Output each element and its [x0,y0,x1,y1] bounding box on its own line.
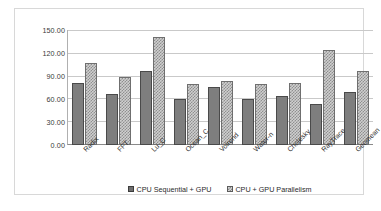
legend-item-label: CPU + GPU Parallelism [235,185,311,194]
bar[interactable] [344,92,356,145]
x-axis-labels: RadixFFTLu_COcean_CVolrendWater-nCholesk… [67,146,373,182]
x-label-slot: Geomean [339,146,373,182]
y-tick-label: 120.00 [19,49,65,58]
bar-group [203,30,237,145]
x-label-slot: Lu_C [135,146,169,182]
x-label-slot: Ocean_C [169,146,203,182]
x-label-slot: Water-n [237,146,271,182]
bar-group [271,30,305,145]
bar[interactable] [106,94,118,145]
y-tick-label: 30.00 [19,118,65,127]
bar-group [67,30,101,145]
bar-group [339,30,373,145]
legend-item-cpu-gpu-parallelism[interactable]: CPU + GPU Parallelism [227,185,311,194]
bar[interactable] [85,63,97,145]
x-label-slot: Radix [67,146,101,182]
bar[interactable] [310,104,322,145]
bar-group [135,30,169,145]
bar-group [237,30,271,145]
y-tick-label: 150.00 [19,26,65,35]
y-tick-label: 0.00 [19,141,65,150]
y-axis: 150.00 120.00 90.00 60.00 30.00 0.00 [15,30,65,145]
bar[interactable] [174,99,186,145]
bar-group [101,30,135,145]
chart-legend: CPU Sequential + GPU CPU + GPU Paralleli… [67,182,373,196]
bar[interactable] [242,99,254,145]
bar[interactable] [276,96,288,145]
y-tick-label: 90.00 [19,72,65,81]
x-label-slot: Cholesky [271,146,305,182]
bar[interactable] [323,50,335,145]
bar-group [169,30,203,145]
bar[interactable] [208,87,220,145]
legend-item-cpu-sequential-gpu[interactable]: CPU Sequential + GPU [128,185,211,194]
bar[interactable] [119,77,131,145]
chart-frame: 150.00 120.00 90.00 60.00 30.00 0.00 Rad… [14,8,364,195]
x-label-slot: RayTrace [305,146,339,182]
x-label-slot: FFT [101,146,135,182]
solid-square-marker-icon [128,186,134,192]
x-label-slot: Volrend [203,146,237,182]
bar-group [305,30,339,145]
bar[interactable] [72,83,84,145]
bar-series-layer [67,30,373,145]
bar[interactable] [153,37,165,145]
checkered-square-marker-icon [227,186,233,192]
y-tick-label: 60.00 [19,95,65,104]
legend-item-label: CPU Sequential + GPU [136,185,211,194]
bar[interactable] [140,71,152,145]
